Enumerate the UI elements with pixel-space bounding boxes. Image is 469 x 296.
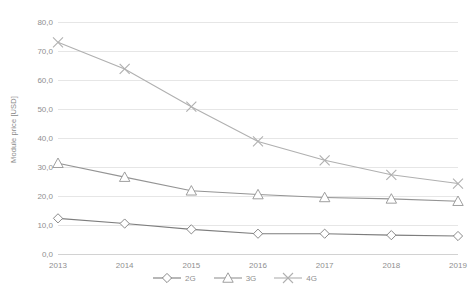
legend-item-2G[interactable]: 2G xyxy=(152,272,196,284)
data-point-diamond-marker xyxy=(120,219,129,228)
y-axis-tick-label: 50,0 xyxy=(37,105,53,114)
data-point-diamond-marker xyxy=(453,231,462,240)
data-point-x-marker xyxy=(320,155,330,165)
y-axis-tick-label: 30,0 xyxy=(37,163,53,172)
plot-area: 0,010,020,030,040,050,060,070,080,0 2013… xyxy=(58,22,458,254)
data-point-diamond-marker xyxy=(253,229,262,238)
y-axis-tick-label: 20,0 xyxy=(37,192,53,201)
legend-label: 2G xyxy=(185,274,196,283)
data-point-diamond-marker xyxy=(53,214,62,223)
series-layer xyxy=(58,22,458,254)
data-point-x-marker xyxy=(186,102,196,112)
x-axis-tick-label: 2013 xyxy=(49,261,67,270)
y-axis-tick-label: 40,0 xyxy=(37,134,53,143)
x-axis-tick-label: 2018 xyxy=(382,261,400,270)
series-4G xyxy=(53,37,463,188)
y-axis-title-label: Module price [USD] xyxy=(9,96,18,163)
x-axis-tick-label: 2015 xyxy=(182,261,200,270)
data-point-x-marker xyxy=(120,64,130,74)
y-axis-tick-label: 10,0 xyxy=(37,221,53,230)
legend-item-3G[interactable]: 3G xyxy=(213,272,257,284)
data-point-triangle-marker xyxy=(53,158,63,167)
chart-legend: 2G3G4G xyxy=(0,272,469,284)
series-2G xyxy=(53,214,462,241)
legend-swatch-diamond-icon xyxy=(152,272,182,284)
y-axis-tick-label: 60,0 xyxy=(37,76,53,85)
legend-label: 4G xyxy=(306,274,317,283)
y-axis-title: Module price [USD] xyxy=(0,0,26,258)
line-chart: Module price [USD] 0,010,020,030,040,050… xyxy=(0,0,469,296)
data-point-diamond-marker xyxy=(162,273,171,282)
data-point-x-marker xyxy=(53,37,63,47)
x-axis-tick-label: 2019 xyxy=(449,261,467,270)
data-point-x-marker xyxy=(253,136,263,146)
y-axis-tick-label: 80,0 xyxy=(37,18,53,27)
y-axis-tick-label: 70,0 xyxy=(37,47,53,56)
legend-item-4G[interactable]: 4G xyxy=(273,272,317,284)
series-line-4G xyxy=(58,42,458,183)
x-axis-tick-label: 2017 xyxy=(316,261,334,270)
x-axis-tick-label: 2014 xyxy=(116,261,134,270)
x-axis-tick-label: 2016 xyxy=(249,261,267,270)
legend-swatch-triangle-icon xyxy=(213,272,243,284)
y-axis-tick-label: 0,0 xyxy=(42,250,53,259)
data-point-diamond-marker xyxy=(187,225,196,234)
data-point-diamond-marker xyxy=(320,229,329,238)
gridline xyxy=(58,254,458,255)
data-point-diamond-marker xyxy=(387,231,396,240)
legend-swatch-x-icon xyxy=(273,272,303,284)
legend-label: 3G xyxy=(246,274,257,283)
series-3G xyxy=(53,158,463,205)
